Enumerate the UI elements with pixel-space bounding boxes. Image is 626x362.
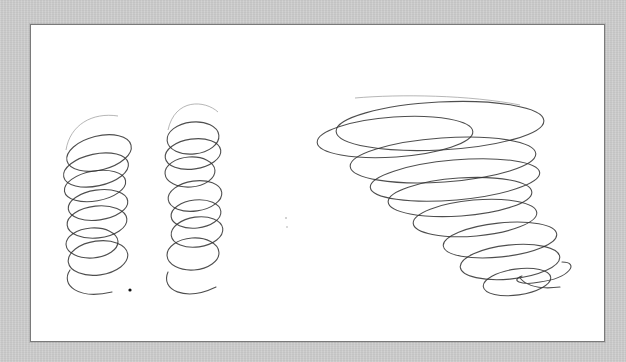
left-helix [60, 115, 135, 294]
pencil-drawing [0, 0, 626, 362]
middle-helix [163, 104, 225, 294]
pencil-dot [128, 288, 131, 291]
tornado-spiral [316, 96, 571, 300]
